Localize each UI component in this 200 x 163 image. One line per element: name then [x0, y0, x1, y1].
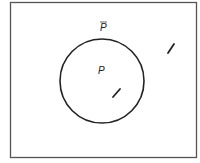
tick-mark-outside-p [168, 44, 174, 53]
tick-mark-inside-p [113, 89, 120, 97]
complement-label: P [100, 22, 107, 33]
venn-diagram: P P [0, 0, 200, 163]
set-p-circle [60, 39, 144, 123]
set-p-label: P [98, 65, 105, 76]
